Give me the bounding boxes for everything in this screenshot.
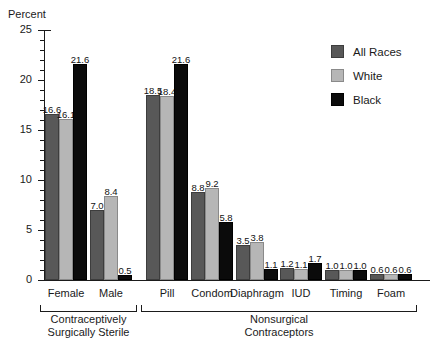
bar-value-label: 3.5 (236, 236, 249, 246)
bar-wrap: 9.2 (205, 30, 219, 280)
bar-value-label: 21.6 (172, 55, 191, 65)
bar-chart: Percent 0510152025 16.616.121.67.08.40.5… (0, 0, 432, 341)
bar-wrap: 18.4 (160, 30, 174, 280)
y-tick-label-wrap: 15 (8, 130, 32, 131)
bar-condom-all-races[interactable]: 8.8 (191, 192, 205, 280)
legend-item-all-races[interactable]: All Races (331, 42, 402, 61)
y-tick-minor (40, 150, 44, 151)
bar-wrap: 5.8 (219, 30, 233, 280)
y-tick-label-wrap: 5 (8, 230, 32, 231)
legend-swatch-icon-all-races (331, 45, 344, 58)
bar-foam-black[interactable]: 0.6 (398, 274, 412, 280)
bar-iud-white[interactable]: 1.1 (294, 269, 308, 280)
bar-male-black[interactable]: 0.5 (118, 275, 132, 280)
y-tick-label-wrap: 10 (8, 180, 32, 181)
bar-value-label: 1.0 (339, 261, 352, 271)
legend-label-white: White (353, 70, 382, 82)
category-label-female: Female (48, 288, 85, 299)
bar-pill-white[interactable]: 18.4 (160, 96, 174, 280)
y-tick-label-wrap: 0 (8, 280, 32, 281)
bar-diaphragm-black[interactable]: 1.1 (264, 269, 278, 280)
y-tick-major (38, 280, 44, 281)
bar-male-white[interactable]: 8.4 (104, 196, 118, 280)
y-tick-minor (40, 190, 44, 191)
y-tick-minor (40, 240, 44, 241)
bracket-label-line1: Nonsurgical (244, 313, 313, 326)
bar-foam-white[interactable]: 0.6 (384, 274, 398, 280)
y-tick-minor (40, 270, 44, 271)
bar-timing-black[interactable]: 1.0 (353, 270, 367, 280)
y-tick-minor (40, 160, 44, 161)
bar-wrap: 1.7 (308, 30, 322, 280)
bar-wrap: 7.0 (90, 30, 104, 280)
y-tick-minor (40, 60, 44, 61)
y-tick-minor (40, 120, 44, 121)
bar-value-label: 21.6 (71, 55, 90, 65)
bar-female-all-races[interactable]: 16.6 (45, 114, 59, 280)
bar-value-label: 1.0 (353, 261, 366, 271)
y-tick-major (38, 80, 44, 81)
bar-wrap: 1.1 (264, 30, 278, 280)
bar-wrap: 1.1 (294, 30, 308, 280)
bar-value-label: 1.0 (325, 261, 338, 271)
bar-value-label: 8.8 (191, 183, 204, 193)
legend-swatch-icon-black (331, 93, 344, 106)
y-tick-major (38, 180, 44, 181)
y-tick-minor (40, 100, 44, 101)
y-axis-title: Percent (8, 8, 46, 20)
bar-wrap: 1.2 (280, 30, 294, 280)
bar-female-black[interactable]: 21.6 (73, 64, 87, 280)
y-tick-minor (40, 170, 44, 171)
bracket-nonsurgical (141, 305, 417, 312)
y-tick-label-wrap: 20 (8, 80, 32, 81)
bar-female-white[interactable]: 16.1 (59, 119, 73, 280)
bar-timing-white[interactable]: 1.0 (339, 270, 353, 280)
bar-value-label: 0.6 (398, 265, 411, 275)
bar-wrap: 18.5 (146, 30, 160, 280)
bracket-surgically-sterile (40, 305, 137, 312)
legend-item-white[interactable]: White (331, 66, 402, 85)
bar-wrap: 21.6 (73, 30, 87, 280)
bar-wrap: 8.4 (104, 30, 118, 280)
bracket-label-line1: Contraceptively (48, 313, 130, 326)
category-label-foam: Foam (377, 288, 405, 299)
bracket-label: NonsurgicalContraceptors (244, 313, 313, 338)
bar-value-label: 1.2 (280, 259, 293, 269)
bar-wrap: 0.5 (118, 30, 132, 280)
y-tick-minor (40, 260, 44, 261)
bar-diaphragm-white[interactable]: 3.8 (250, 242, 264, 280)
bar-value-label: 9.2 (205, 179, 218, 189)
y-tick-minor (40, 220, 44, 221)
category-label-condom: Condom (191, 288, 233, 299)
category-label-male: Male (99, 288, 123, 299)
bar-iud-black[interactable]: 1.7 (308, 263, 322, 280)
bar-iud-all-races[interactable]: 1.2 (280, 268, 294, 280)
y-tick-major (38, 30, 44, 31)
bar-value-label: 1.7 (308, 254, 321, 264)
y-tick-label: 10 (10, 174, 32, 185)
y-tick-minor (40, 210, 44, 211)
bar-diaphragm-all-races[interactable]: 3.5 (236, 245, 250, 280)
category-label-diaphragm: Diaphragm (230, 288, 284, 299)
bar-condom-white[interactable]: 9.2 (205, 188, 219, 280)
bar-value-label: 1.1 (294, 260, 307, 270)
bar-condom-black[interactable]: 5.8 (219, 222, 233, 280)
category-label-pill: Pill (160, 288, 175, 299)
y-tick-minor (40, 50, 44, 51)
legend: All Races White Black (331, 42, 402, 114)
bar-foam-all-races[interactable]: 0.6 (370, 274, 384, 280)
y-tick-label: 0 (10, 274, 32, 285)
bar-value-label: 3.8 (250, 233, 263, 243)
y-tick-minor (40, 140, 44, 141)
y-tick-label-wrap: 25 (8, 30, 32, 31)
bar-wrap: 3.5 (236, 30, 250, 280)
y-tick-minor (40, 70, 44, 71)
y-tick-label: 15 (10, 124, 32, 135)
bar-timing-all-races[interactable]: 1.0 (325, 270, 339, 280)
cropped-title-fragment (150, 0, 290, 4)
bar-value-label: 0.6 (370, 265, 383, 275)
bar-pill-black[interactable]: 21.6 (174, 64, 188, 280)
bar-pill-all-races[interactable]: 18.5 (146, 95, 160, 280)
bar-male-all-races[interactable]: 7.0 (90, 210, 104, 280)
legend-item-black[interactable]: Black (331, 90, 402, 109)
